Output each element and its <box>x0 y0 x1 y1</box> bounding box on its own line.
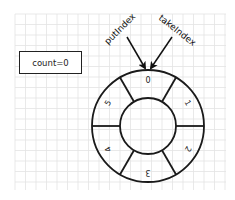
ring-buffer-diagram: 0 1 2 3 4 5 putIndex takeIndex <box>0 0 235 200</box>
slot-divider <box>162 150 176 174</box>
slot-label-0: 0 <box>145 76 150 85</box>
slot-divider <box>120 150 134 174</box>
slot-label-4: 4 <box>103 145 113 154</box>
putindex-arrow <box>127 37 145 68</box>
slot-label-2: 2 <box>183 145 193 154</box>
count-label: count=0 <box>32 58 69 68</box>
pointer-putindex: putIndex <box>102 11 145 68</box>
pointer-takeindex: takeIndex <box>151 13 198 68</box>
ring-inner-circle <box>120 98 176 154</box>
slot-label-3: 3 <box>145 168 150 177</box>
slot-label-1: 1 <box>183 99 193 108</box>
slot-label-5: 5 <box>103 99 113 108</box>
takeindex-label: takeIndex <box>157 13 199 49</box>
takeindex-arrow <box>151 37 172 68</box>
count-box: count=0 <box>19 51 82 74</box>
slot-dividers <box>92 78 204 175</box>
circular-buffer-ring: 0 1 2 3 4 5 <box>92 70 204 182</box>
